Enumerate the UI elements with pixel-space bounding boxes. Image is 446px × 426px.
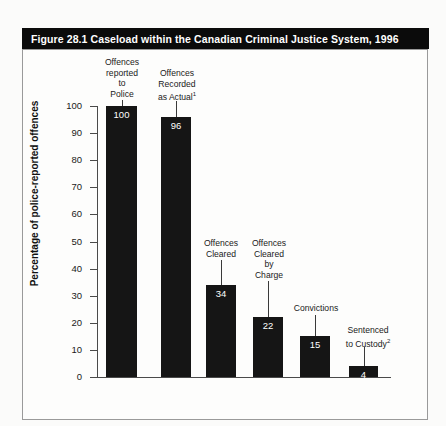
label-leader-line (315, 315, 316, 337)
category-label: Sentencedto Custody2 (336, 325, 400, 349)
category-label: OffencesRecordedas Actual1 (152, 68, 202, 102)
label-leader-line (268, 281, 269, 317)
label-leader-line (221, 260, 222, 285)
figure-title-bar: Figure 28.1 Caseload within the Canadian… (22, 28, 429, 49)
category-label: Convictions (281, 303, 351, 314)
label-leader-line (122, 100, 123, 106)
figure-container: Figure 28.1 Caseload within the Canadian… (0, 0, 446, 426)
bar (161, 117, 191, 377)
category-label: OffencesCleared (196, 238, 246, 259)
bar (106, 106, 137, 377)
page-title: Figure 28.1 Caseload within the Canadian… (22, 33, 399, 45)
bar-value-label: 4 (349, 370, 378, 380)
bar-value-label: 100 (106, 110, 137, 120)
bar-value-label: 34 (206, 289, 236, 299)
bar-value-label: 15 (300, 340, 330, 350)
category-label: OffencesClearedbyCharge (243, 238, 295, 280)
label-leader-line (176, 101, 177, 117)
bar-value-label: 96 (161, 121, 191, 131)
label-leader-line (364, 347, 365, 366)
category-label: OffencesreportedtoPolice (100, 57, 144, 99)
bar-value-label: 22 (253, 321, 283, 331)
